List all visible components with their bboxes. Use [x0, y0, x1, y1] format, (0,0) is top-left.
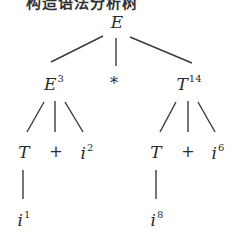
node-index: 8 — [157, 209, 163, 220]
node-index: 1 — [24, 209, 30, 220]
node-i2: i2 — [81, 143, 94, 162]
edge-e3-t_left — [27, 102, 44, 132]
node-symbol: i — [212, 143, 217, 163]
node-plus_left: + — [49, 144, 62, 160]
node-root: E — [111, 14, 123, 31]
edge-t14-i6 — [198, 102, 215, 132]
edge-root-t14 — [130, 37, 192, 63]
node-e3: E3 — [44, 74, 64, 93]
node-symbol: + — [49, 142, 62, 161]
node-star: * — [110, 76, 118, 92]
node-symbol: i — [151, 210, 156, 230]
node-index: 14 — [189, 73, 202, 84]
parse-tree-diagram: 构造语法分析树 EE3*T14T+i2T+i6i1i8 — [0, 0, 238, 238]
node-t_right: T — [150, 144, 161, 161]
node-plus_right: + — [181, 144, 194, 160]
node-t14: T14 — [176, 74, 201, 93]
node-index: 2 — [87, 142, 93, 153]
node-symbol: E — [44, 74, 56, 94]
node-i1: i1 — [18, 210, 31, 229]
node-i6: i6 — [212, 143, 225, 162]
tree-edges — [0, 0, 238, 238]
node-symbol: T — [176, 74, 187, 94]
node-i8: i8 — [151, 210, 164, 229]
node-index: 6 — [218, 142, 224, 153]
node-symbol: * — [110, 74, 118, 93]
node-symbol: i — [81, 143, 86, 163]
node-symbol: + — [181, 142, 194, 161]
node-symbol: T — [18, 142, 29, 162]
edge-t14-t_right — [160, 102, 176, 132]
edge-root-e3 — [51, 36, 103, 62]
node-index: 3 — [58, 73, 64, 84]
node-symbol: T — [150, 142, 161, 162]
edge-e3-i2 — [65, 102, 83, 132]
node-t_left: T — [18, 144, 29, 161]
node-symbol: E — [111, 12, 123, 32]
node-symbol: i — [18, 210, 23, 230]
